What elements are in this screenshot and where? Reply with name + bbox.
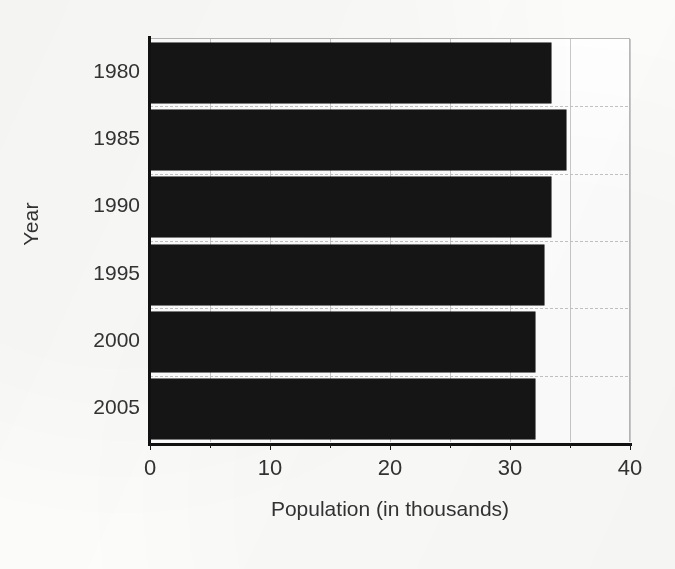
bar xyxy=(150,312,535,372)
y-tick-label: 2000 xyxy=(70,328,140,352)
y-axis-spine xyxy=(148,36,151,446)
x-tick-minor xyxy=(570,443,571,448)
plot-area xyxy=(150,38,630,442)
bar xyxy=(150,177,551,237)
x-tick-minor xyxy=(330,443,331,448)
y-axis-title: Year xyxy=(19,179,43,269)
x-tick-minor xyxy=(450,443,451,448)
y-tick-label: 2005 xyxy=(70,395,140,419)
x-tick-label: 20 xyxy=(355,455,425,481)
x-tick-major xyxy=(150,443,151,450)
y-tick-label: 1990 xyxy=(70,193,140,217)
x-tick-major xyxy=(270,443,271,450)
horizontal-gridline xyxy=(150,308,629,309)
bar xyxy=(150,379,535,439)
bar xyxy=(150,110,566,170)
x-tick-minor xyxy=(210,443,211,448)
x-axis-title: Population (in thousands) xyxy=(150,497,630,521)
x-tick-label: 30 xyxy=(475,455,545,481)
horizontal-gridline xyxy=(150,106,629,107)
x-tick-major xyxy=(630,443,631,450)
x-tick-major xyxy=(510,443,511,450)
horizontal-gridline xyxy=(150,174,629,175)
bar-chart-figure: Year 198019851990199520002005 010203040 … xyxy=(0,0,675,569)
x-tick-label: 40 xyxy=(595,455,665,481)
x-tick-major xyxy=(390,443,391,450)
x-tick-label: 0 xyxy=(115,455,185,481)
horizontal-gridline xyxy=(150,241,629,242)
x-tick-label: 10 xyxy=(235,455,305,481)
bar xyxy=(150,245,544,305)
y-tick-label-group: 198019851990199520002005 xyxy=(60,38,140,442)
bar xyxy=(150,43,551,103)
y-tick-label: 1985 xyxy=(70,126,140,150)
vertical-gridline xyxy=(630,39,631,442)
y-tick-label: 1995 xyxy=(70,261,140,285)
horizontal-gridline xyxy=(150,376,629,377)
y-tick-label: 1980 xyxy=(70,59,140,83)
